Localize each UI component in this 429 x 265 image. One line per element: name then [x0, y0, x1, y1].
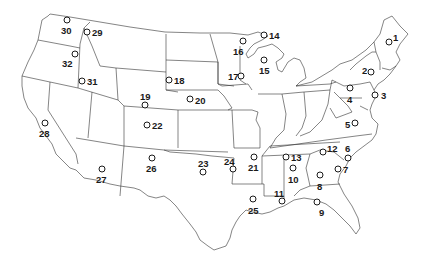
- map-marker-label: 17: [228, 72, 239, 82]
- map-marker-12: [320, 149, 327, 156]
- map-marker-label: 16: [233, 47, 244, 57]
- map-marker-9: [314, 199, 321, 206]
- map-marker-label: 30: [61, 26, 72, 36]
- map-marker-19: [142, 102, 149, 109]
- map-marker-label: 9: [319, 208, 324, 218]
- map-marker-label: 10: [288, 175, 299, 185]
- map-marker-25: [250, 196, 257, 203]
- map-marker-14: [261, 32, 268, 39]
- us-map: [0, 0, 429, 265]
- map-marker-label: 23: [198, 159, 209, 169]
- map-marker-22: [144, 122, 151, 129]
- map-marker-32: [72, 51, 79, 58]
- map-marker-29: [84, 29, 91, 36]
- map-marker-label: 29: [92, 28, 103, 38]
- map-marker-label: 28: [39, 129, 50, 139]
- map-marker-label: 24: [224, 157, 235, 167]
- map-marker-label: 3: [381, 91, 386, 101]
- map-marker-label: 7: [343, 165, 348, 175]
- map-marker-21: [251, 154, 258, 161]
- map-marker-20: [187, 96, 194, 103]
- map-marker-23: [200, 169, 207, 176]
- map-marker-label: 26: [146, 164, 157, 174]
- map-marker-label: 18: [174, 76, 185, 86]
- map-marker-label: 21: [248, 163, 259, 173]
- map-marker-label: 4: [347, 95, 352, 105]
- map-marker-label: 6: [345, 144, 350, 154]
- map-marker-label: 11: [274, 189, 284, 199]
- map-marker-15: [261, 57, 268, 64]
- map-marker-label: 2: [362, 66, 367, 76]
- map-marker-26: [149, 155, 156, 162]
- map-marker-label: 32: [62, 59, 73, 69]
- map-marker-27: [99, 166, 106, 173]
- map-marker-7: [335, 166, 342, 173]
- map-marker-label: 19: [140, 92, 151, 102]
- map-marker-18: [166, 77, 173, 84]
- map-marker-5: [352, 120, 359, 127]
- map-marker-label: 27: [96, 175, 107, 185]
- map-marker-6: [345, 155, 352, 162]
- map-marker-label: 20: [195, 96, 206, 106]
- map-marker-label: 12: [327, 144, 338, 154]
- map-marker-8: [317, 172, 324, 179]
- map-marker-label: 31: [87, 77, 98, 87]
- map-marker-label: 15: [259, 66, 270, 76]
- map-marker-label: 8: [317, 182, 322, 192]
- map-marker-10: [290, 165, 297, 172]
- map-marker-label: 1: [393, 33, 398, 43]
- map-marker-3: [372, 92, 379, 99]
- map-marker-31: [79, 78, 86, 85]
- map-marker-label: 13: [291, 153, 302, 163]
- map-marker-label: 5: [345, 120, 350, 130]
- map-marker-13: [283, 154, 290, 161]
- map-marker-16: [240, 38, 247, 45]
- map-marker-28: [42, 120, 49, 127]
- map-marker-2: [368, 69, 375, 76]
- map-marker-label: 25: [248, 206, 259, 216]
- map-marker-30: [64, 17, 71, 24]
- map-marker-label: 14: [269, 31, 280, 41]
- map-marker-label: 22: [152, 121, 163, 131]
- map-marker-1: [386, 39, 393, 46]
- map-marker-4: [347, 85, 354, 92]
